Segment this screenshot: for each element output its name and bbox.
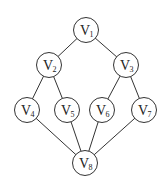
node-subscript: 2 <box>53 65 57 74</box>
node-v5: V5 <box>55 98 80 123</box>
nodes: V1V2V3V4V5V6V7V8 <box>15 18 157 176</box>
node-subscript: 5 <box>71 110 75 119</box>
node-subscript: 1 <box>90 30 94 39</box>
graph-diagram: V1V2V3V4V5V6V7V8 <box>0 0 166 187</box>
node-subscript: 3 <box>130 65 134 74</box>
node-v8: V8 <box>73 151 98 176</box>
node-v2: V2 <box>37 53 62 78</box>
node-v3: V3 <box>114 53 139 78</box>
node-subscript: 4 <box>31 110 35 119</box>
edges <box>27 30 144 163</box>
node-v7: V7 <box>132 98 157 123</box>
node-v4: V4 <box>15 98 40 123</box>
node-v6: V6 <box>90 98 115 123</box>
node-v1: V1 <box>74 18 99 43</box>
node-subscript: 6 <box>106 110 110 119</box>
node-subscript: 8 <box>89 163 93 172</box>
node-subscript: 7 <box>148 110 152 119</box>
